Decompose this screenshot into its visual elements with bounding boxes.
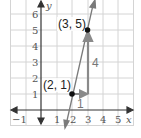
- x-tick-label: 5: [115, 114, 121, 125]
- y-axis-up-arrow-icon: [38, 1, 44, 7]
- point-2-1: [69, 91, 75, 97]
- x-axis-right-arrow-icon: [127, 107, 133, 113]
- x-axis-left-arrow-icon: [11, 107, 17, 113]
- coordinate-plane: y x −1 1 2 3 4 5 1 2 3 4 5 6 1 4 (2, 1) …: [0, 0, 141, 138]
- rise-arrow: [84, 32, 92, 94]
- x-axis-label: x: [126, 114, 132, 125]
- x-tick-label: −1: [12, 114, 27, 125]
- y-tick-label: 2: [32, 73, 38, 84]
- x-tick-label: 2: [70, 114, 76, 125]
- x-tick-label: 3: [85, 114, 91, 125]
- rise-arrowhead-icon: [84, 32, 92, 41]
- line-top-arrow-icon: [90, 0, 96, 8]
- x-tick-label: 4: [100, 114, 106, 125]
- run-label: 1: [77, 97, 84, 111]
- y-tick-label: 6: [32, 9, 38, 20]
- point-3-5-label: (3, 5): [58, 17, 86, 31]
- y-axis-down-arrow-icon: [38, 118, 44, 124]
- y-tick-label: 3: [32, 57, 38, 68]
- y-tick-label: 5: [32, 25, 38, 36]
- rise-label: 4: [92, 56, 99, 70]
- x-tick-label: 1: [54, 114, 60, 125]
- y-axis-label: y: [45, 0, 52, 11]
- point-2-1-label: (2, 1): [43, 78, 71, 92]
- line-bottom-arrow-icon: [64, 120, 69, 128]
- y-tick-label: 4: [32, 41, 38, 52]
- y-tick-label: 1: [32, 89, 38, 100]
